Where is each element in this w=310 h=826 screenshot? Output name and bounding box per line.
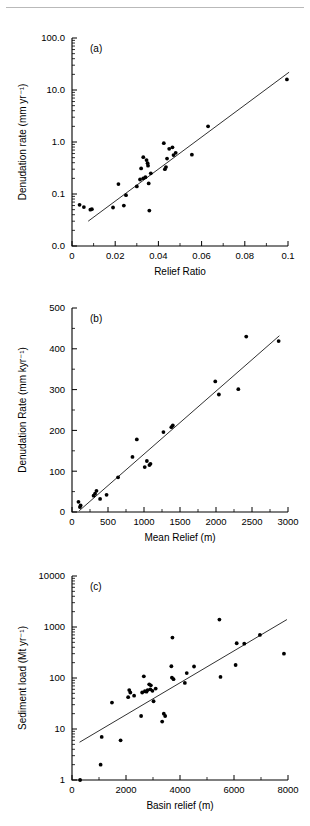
panel-b-fit-line	[79, 336, 279, 511]
panel-b-points	[77, 335, 281, 509]
y-tick-label: 400	[49, 343, 65, 354]
top-divider-rule	[6, 7, 304, 8]
data-point	[128, 691, 132, 695]
data-point	[145, 158, 149, 162]
data-point	[90, 207, 94, 211]
x-tick-label: 1000	[133, 516, 154, 527]
y-tick-label: 0.0	[52, 240, 65, 251]
data-point	[105, 493, 109, 497]
panel-b-letter: (b)	[90, 313, 102, 324]
data-point	[117, 182, 121, 186]
x-tick-label: 0	[69, 784, 74, 795]
panel-c-xlabel: Basin relief (m)	[146, 800, 213, 811]
panel-c-letter: (c)	[90, 581, 102, 592]
data-point	[141, 155, 145, 159]
data-point	[236, 387, 240, 391]
panel-b-xlabel: Mean Relief (m)	[144, 532, 215, 543]
data-point	[78, 778, 82, 782]
figure-page: 0.00.11.010.0100.000.020.040.060.080.1(a…	[0, 0, 310, 826]
y-tick-label: 10	[54, 723, 65, 734]
data-point	[78, 203, 82, 207]
x-tick-label: 4000	[169, 784, 190, 795]
data-point	[126, 695, 130, 699]
data-point	[122, 204, 126, 208]
data-point	[282, 652, 286, 656]
data-point	[149, 683, 153, 687]
data-point	[147, 209, 151, 213]
data-point	[147, 181, 151, 185]
panel-a-ylabel: Denudation rate (mm yr⁻¹)	[17, 84, 28, 201]
x-tick-label: 3000	[277, 516, 298, 527]
data-point	[164, 165, 168, 169]
data-point	[145, 459, 149, 463]
data-point	[190, 153, 194, 157]
panel-c-points	[78, 618, 286, 782]
panel-c-axis-lines	[72, 576, 288, 780]
x-tick-label: 6000	[223, 784, 244, 795]
x-tick-label: 0.08	[236, 250, 255, 261]
data-point	[116, 475, 120, 479]
data-point	[139, 714, 143, 718]
x-tick-label: 2500	[241, 516, 262, 527]
data-point	[151, 689, 155, 693]
data-point	[139, 167, 143, 171]
y-tick-label: 500	[49, 302, 65, 313]
panel-c-fit-line	[80, 620, 287, 743]
y-tick-label: 100.0	[41, 32, 65, 43]
data-point	[162, 430, 166, 434]
data-point	[149, 171, 153, 175]
data-point	[285, 77, 289, 81]
y-tick-label: 1.0	[52, 136, 65, 147]
data-point	[135, 185, 139, 189]
x-tick-label: 0	[69, 250, 74, 261]
data-point	[165, 157, 169, 161]
data-point	[163, 714, 167, 718]
panel-b-axis-lines	[72, 308, 288, 512]
y-tick-label: 10000	[39, 570, 65, 581]
y-tick-label: 0	[60, 506, 65, 517]
data-point	[277, 339, 281, 343]
data-point	[218, 618, 222, 622]
data-point	[219, 675, 223, 679]
data-point	[132, 694, 136, 698]
panel-c-svg: 11010010001000002000400060008000(c)Basin…	[0, 562, 310, 826]
data-point	[160, 720, 164, 724]
data-point	[185, 671, 189, 675]
data-point	[77, 500, 81, 504]
data-point	[135, 437, 139, 441]
panel-c-container: 11010010001000002000400060008000(c)Basin…	[0, 562, 310, 826]
panel-b-ylabel: Denudation Rate (mm kyr⁻¹)	[17, 347, 28, 473]
x-tick-label: 1500	[169, 516, 190, 527]
data-point	[206, 124, 210, 128]
data-point	[138, 178, 142, 182]
panel-a-axis-lines	[72, 38, 288, 246]
data-point	[143, 465, 147, 469]
y-tick-label: 0.1	[52, 188, 65, 199]
data-point	[154, 687, 158, 691]
data-point	[171, 145, 175, 149]
data-point	[234, 663, 238, 667]
data-point	[146, 164, 150, 168]
data-point	[144, 175, 148, 179]
data-point	[213, 380, 217, 384]
x-tick-label: 0.1	[281, 250, 294, 261]
x-tick-label: 2000	[205, 516, 226, 527]
panel-b-svg: 0100200300400500050010001500200025003000…	[0, 290, 310, 552]
panel-a-svg: 0.00.11.010.0100.000.020.040.060.080.1(a…	[0, 18, 310, 280]
data-point	[142, 674, 146, 678]
data-point	[174, 151, 178, 155]
y-tick-label: 200	[49, 425, 65, 436]
panel-a-letter: (a)	[90, 43, 102, 54]
x-tick-label: 500	[100, 516, 116, 527]
data-point	[171, 636, 175, 640]
data-point	[183, 681, 187, 685]
data-point	[100, 735, 104, 739]
y-tick-label: 1	[60, 774, 65, 785]
data-point	[111, 206, 115, 210]
data-point	[131, 455, 135, 459]
y-tick-label: 100	[49, 672, 65, 683]
x-tick-label: 0.02	[106, 250, 125, 261]
data-point	[119, 738, 123, 742]
data-point	[172, 677, 176, 681]
x-tick-label: 0.04	[149, 250, 168, 261]
